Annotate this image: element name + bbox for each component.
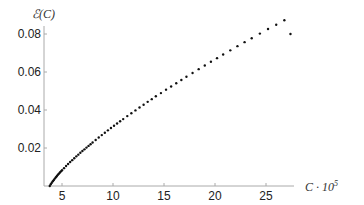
data-point [216, 57, 218, 59]
data-point [126, 115, 128, 117]
y-tick-label: 0.08 [18, 27, 42, 41]
data-point [119, 120, 121, 122]
x-tick-label: 5 [59, 189, 66, 203]
data-point [229, 49, 231, 51]
y-tick-label: 0.06 [18, 65, 42, 79]
data-series [49, 19, 292, 187]
data-point [251, 37, 253, 39]
data-point [73, 157, 75, 159]
data-point [222, 53, 224, 55]
data-point [91, 141, 93, 143]
y-ticks: 0.020.040.060.08 [18, 27, 47, 155]
data-point [243, 41, 245, 43]
x-axis-title-exponent: 5 [334, 179, 338, 188]
data-point [75, 155, 77, 157]
data-point [116, 122, 118, 124]
data-point [191, 72, 193, 74]
x-tick-label: 15 [157, 189, 171, 203]
data-point [71, 159, 73, 161]
data-point [236, 45, 238, 47]
data-point [130, 112, 132, 114]
data-point [180, 79, 182, 81]
data-point [146, 101, 148, 103]
data-point [63, 167, 65, 169]
data-point [259, 32, 261, 34]
x-tick-label: 20 [208, 189, 222, 203]
x-axis-title-base: C · 10 [305, 180, 334, 194]
data-point [185, 76, 187, 78]
data-point [81, 150, 83, 152]
data-point [134, 109, 136, 111]
data-point [122, 118, 124, 120]
y-axis-title: ℰ(C) [32, 7, 55, 21]
data-point [104, 132, 106, 134]
data-point [107, 129, 109, 131]
data-point [170, 85, 172, 87]
data-point [197, 68, 199, 70]
data-point [69, 161, 71, 163]
data-point [85, 146, 87, 148]
data-point [113, 125, 115, 127]
data-point [89, 143, 91, 145]
chart-canvas: 0.020.040.060.08 510152025 ℰ(C) C · 105 [0, 0, 364, 205]
data-point [275, 23, 277, 25]
data-point [94, 139, 96, 141]
data-point [151, 98, 153, 100]
y-tick-label: 0.02 [18, 141, 42, 155]
x-tick-label: 10 [106, 189, 120, 203]
data-point [210, 61, 212, 63]
data-point [142, 103, 144, 105]
data-point [83, 148, 85, 150]
data-point [110, 127, 112, 129]
y-tick-label: 0.04 [18, 103, 42, 117]
data-point [283, 19, 285, 21]
data-point [79, 152, 81, 154]
data-point [160, 92, 162, 94]
data-point [101, 134, 103, 136]
axes [44, 26, 294, 186]
data-point [87, 145, 89, 147]
data-point [204, 64, 206, 66]
data-point [175, 82, 177, 84]
data-point [67, 163, 69, 165]
data-point [77, 153, 79, 155]
x-tick-label: 25 [259, 189, 273, 203]
data-point [138, 106, 140, 108]
data-point [267, 28, 269, 30]
data-point [289, 33, 291, 35]
data-point [61, 169, 63, 171]
data-point [98, 136, 100, 138]
data-point [155, 95, 157, 97]
data-point [65, 165, 67, 167]
x-axis-title: C · 105 [305, 179, 338, 194]
data-point [165, 88, 167, 90]
